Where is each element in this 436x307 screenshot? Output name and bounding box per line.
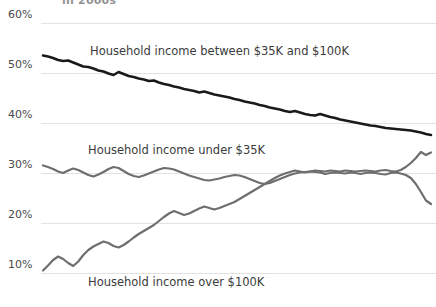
series-label-high: Household income over $100K (88, 276, 264, 288)
y-axis-tick-40: 40% (8, 109, 32, 120)
y-axis-tick-20: 20% (8, 209, 32, 220)
chart-container: in 2000s 10%20%30%40%50%60% Household in… (0, 0, 436, 307)
series-line-2 (43, 152, 431, 271)
y-axis-tick-30: 30% (8, 159, 32, 170)
series-label-low: Household income under $35K (88, 144, 265, 156)
y-axis-tick-10: 10% (8, 259, 32, 270)
series-lines-group (43, 56, 431, 271)
y-axis-tick-60: 60% (8, 9, 32, 20)
series-label-middle: Household income between $35K and $100K (90, 45, 349, 57)
y-axis-tick-50: 50% (8, 59, 32, 70)
